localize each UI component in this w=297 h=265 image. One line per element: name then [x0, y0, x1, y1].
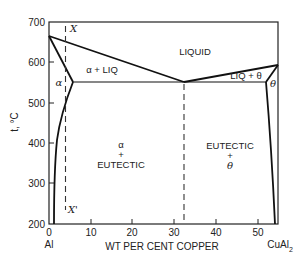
x-tick-30: 30 — [168, 227, 180, 238]
x-tick-50: 50 — [252, 227, 264, 238]
x-tick-40: 40 — [210, 227, 222, 238]
y-tick-700: 700 — [28, 17, 45, 28]
y-tick-600: 600 — [28, 57, 45, 68]
x-end-label-al: Al — [45, 239, 54, 250]
label-hypo-eutectic: EUTECTIC — [97, 159, 145, 170]
phase-diagram-chart: 700 600 500 400 300 200 0 10 20 30 40 50… — [0, 0, 297, 265]
y-axis-ticks — [49, 62, 54, 183]
y-tick-200: 200 — [28, 219, 45, 230]
y-tick-300: 300 — [28, 178, 45, 189]
x-axis-title: WT PER CENT COPPER — [105, 241, 219, 252]
label-x-bottom: X' — [67, 204, 78, 215]
label-alpha-liq: α + LIQ — [86, 64, 118, 75]
x-end-label-cual2: CuAl2 — [267, 239, 293, 253]
y-tick-400: 400 — [28, 138, 45, 149]
phase-boundaries — [49, 36, 278, 224]
dashed-lines — [66, 26, 185, 224]
label-liq-theta: LIQ + θ — [230, 70, 261, 81]
x-axis-ticks — [91, 219, 258, 224]
label-liquid: LIQUID — [179, 46, 211, 57]
x-tick-10: 10 — [85, 227, 97, 238]
solvus-alpha-curve — [54, 82, 73, 224]
x-tick-20: 20 — [126, 227, 138, 238]
label-theta: θ — [270, 78, 276, 89]
y-axis-title: t, °C — [9, 112, 20, 132]
y-tick-500: 500 — [28, 98, 45, 109]
label-alpha: α — [56, 77, 63, 88]
label-hyper-theta: θ — [227, 160, 233, 171]
x-tick-0: 0 — [46, 227, 52, 238]
plot-frame — [49, 22, 278, 224]
label-x-top: X — [69, 23, 78, 34]
theta-left-boundary — [266, 82, 275, 224]
